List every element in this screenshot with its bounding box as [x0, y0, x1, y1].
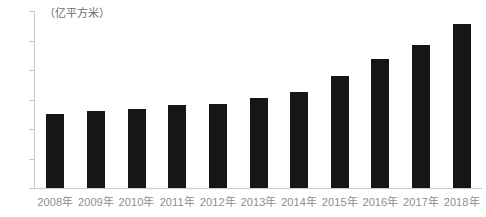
bar [168, 105, 186, 188]
x-axis-tick-label: 2013年 [241, 193, 277, 209]
y-axis-tick-mark [29, 129, 34, 130]
bar [412, 45, 430, 188]
bar [331, 76, 349, 188]
x-axis-tick-label: 2016年 [362, 193, 398, 209]
x-axis-tick-label: 2010年 [119, 193, 155, 209]
plot-area [35, 11, 482, 188]
bar [250, 98, 268, 188]
bar [87, 111, 105, 188]
x-axis-tick-label: 2017年 [403, 193, 439, 209]
x-axis-tick-label: 2012年 [200, 193, 236, 209]
x-axis-tick-label: 2008年 [37, 193, 73, 209]
x-axis-labels: 2008年2009年2010年2011年2012年2013年2014年2015年… [35, 193, 482, 213]
y-axis-tick-mark [29, 100, 34, 101]
bar [371, 59, 389, 188]
y-axis-tick-mark [29, 70, 34, 71]
x-axis-tick-label: 2014年 [281, 193, 317, 209]
x-axis-tick-label: 2009年 [78, 193, 114, 209]
x-axis-tick-label: 2015年 [322, 193, 358, 209]
x-axis-tick-label: 2011年 [160, 193, 195, 209]
x-axis-line [34, 188, 482, 189]
bar-chart: （亿平方米） 050100150200250300 2008年2009年2010… [0, 0, 486, 217]
y-axis-tick-mark [29, 188, 34, 189]
bar [209, 104, 227, 188]
y-axis-tick-mark [29, 159, 34, 160]
bar [290, 92, 308, 188]
y-axis-tick-mark [29, 11, 34, 12]
bar [453, 24, 471, 188]
bar [128, 109, 146, 188]
bar [46, 114, 64, 188]
y-axis-tick-mark [29, 41, 34, 42]
x-axis-tick-label: 2018年 [444, 193, 480, 209]
